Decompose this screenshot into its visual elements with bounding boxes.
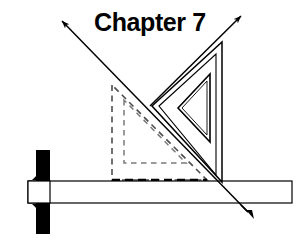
- t-square-head-group: [28, 150, 50, 234]
- chapter-title: Chapter 7: [94, 8, 206, 36]
- t-square-head-blade-junction: [28, 181, 50, 203]
- chapter-opener-illustration: Chapter 7: [0, 0, 306, 240]
- drafting-tools-diagram: Chapter 7: [0, 0, 306, 240]
- set-square-group: [152, 42, 222, 182]
- t-square-blade-group: [28, 181, 292, 203]
- t-square-blade: [28, 181, 292, 203]
